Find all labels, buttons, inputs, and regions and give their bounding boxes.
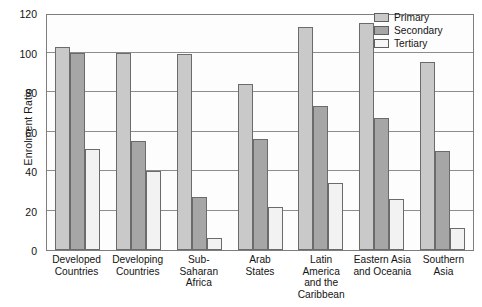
- bar-group: [47, 15, 108, 250]
- bar-primary: [116, 53, 131, 251]
- bar-tertiary: [389, 199, 404, 250]
- tertiary-swatch: [374, 39, 389, 48]
- x-axis-label-line: Developed: [47, 254, 106, 266]
- plot-area: [46, 14, 474, 251]
- bar-group: [169, 15, 230, 250]
- bar-secondary: [374, 118, 389, 250]
- bar-primary: [238, 84, 253, 250]
- x-axis-labels: DevelopedCountriesDevelopingCountriesSub…: [46, 254, 474, 300]
- y-tick-label-0: 0: [31, 245, 37, 257]
- chart-legend: PrimarySecondaryTertiary: [374, 12, 443, 49]
- legend-label: Primary: [394, 12, 429, 23]
- bar-secondary: [313, 106, 328, 250]
- bar-group: [108, 15, 169, 250]
- x-axis-label: LatinAmericaand theCaribbean: [291, 254, 352, 300]
- x-axis-label: Sub-SaharanAfrica: [168, 254, 229, 300]
- x-axis-label-line: Eastern Asia: [353, 254, 412, 266]
- bar-tertiary: [207, 238, 222, 250]
- bar-primary: [177, 54, 192, 250]
- x-axis-label-line: Developing: [108, 254, 167, 266]
- x-axis-label: DevelopedCountries: [46, 254, 107, 300]
- x-axis-label-line: Countries: [47, 266, 106, 278]
- bar-secondary: [70, 53, 85, 251]
- y-tick-label-80: 80: [25, 87, 37, 99]
- y-axis-ticks: 020406080100120: [0, 14, 42, 251]
- bar-secondary: [253, 139, 268, 250]
- bar-group: [351, 15, 412, 250]
- bar-tertiary: [146, 171, 161, 250]
- x-axis-label: DevelopingCountries: [107, 254, 168, 300]
- x-axis-label-line: Africa: [169, 277, 228, 289]
- x-axis-label: SouthernAsia: [413, 254, 474, 300]
- bar-group: [230, 15, 291, 250]
- bar-primary: [420, 62, 435, 250]
- x-axis-label-line: Southern: [414, 254, 473, 266]
- x-axis-label-line: Countries: [108, 266, 167, 278]
- bar-tertiary: [450, 228, 465, 250]
- secondary-swatch: [374, 26, 389, 35]
- bar-chart: Enrolment Ratio 020406080100120 Develope…: [0, 0, 482, 307]
- primary-swatch: [374, 13, 389, 22]
- bar-group: [290, 15, 351, 250]
- x-axis-label-line: and the: [292, 277, 351, 289]
- bar-tertiary: [85, 149, 100, 250]
- bar-groups: [47, 15, 473, 250]
- x-axis-label-line: Sub-Saharan: [169, 254, 228, 277]
- legend-item-secondary: Secondary: [374, 25, 443, 36]
- x-axis-label: Eastern Asiaand Oceania: [352, 254, 413, 300]
- x-axis-label-line: Asia: [414, 266, 473, 278]
- x-axis-label-line: Arab: [230, 254, 289, 266]
- y-tick-label-40: 40: [25, 166, 37, 178]
- bar-group: [412, 15, 473, 250]
- bar-secondary: [192, 197, 207, 250]
- legend-item-tertiary: Tertiary: [374, 38, 443, 49]
- y-tick-label-100: 100: [19, 48, 37, 60]
- bar-secondary: [131, 141, 146, 250]
- y-tick-label-20: 20: [25, 206, 37, 218]
- legend-item-primary: Primary: [374, 12, 443, 23]
- bar-primary: [359, 23, 374, 250]
- x-axis-label-line: America: [292, 266, 351, 278]
- legend-label: Tertiary: [394, 38, 427, 49]
- bar-tertiary: [328, 183, 343, 250]
- bar-tertiary: [268, 207, 283, 250]
- bar-secondary: [435, 151, 450, 250]
- x-axis-label-line: and Oceania: [353, 266, 412, 278]
- y-tick-label-60: 60: [25, 127, 37, 139]
- legend-label: Secondary: [394, 25, 443, 36]
- x-axis-label-line: States: [230, 266, 289, 278]
- x-axis-label-line: Caribbean: [292, 289, 351, 301]
- bar-primary: [55, 47, 70, 250]
- x-axis-label: ArabStates: [229, 254, 290, 300]
- bar-primary: [298, 27, 313, 250]
- y-tick-label-120: 120: [19, 8, 37, 20]
- x-axis-label-line: Latin: [292, 254, 351, 266]
